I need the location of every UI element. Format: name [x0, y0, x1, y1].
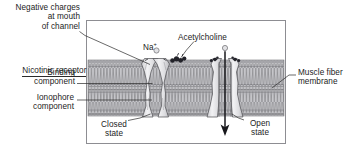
label-open-state: Open state: [240, 119, 280, 138]
label-sodium-ion-text: Na: [143, 43, 154, 52]
lipid-bilayer-membrane: [88, 60, 284, 116]
label-muscle-fiber-membrane: Muscle fiber membrane: [298, 68, 343, 87]
nicotinic-receptor-diagram: Negative charges at mouth of channel Nic…: [0, 0, 356, 152]
label-binding-component: Binding component: [0, 68, 75, 87]
label-acetylcholine: Acetylcholine: [178, 33, 227, 42]
label-negative-charges: Negative charges at mouth of channel: [0, 3, 80, 31]
label-sodium-ion-charge: +: [154, 41, 157, 47]
label-sodium-ion: Na+: [143, 40, 157, 52]
label-closed-state: Closed state: [92, 120, 136, 139]
label-ionophore-component: Ionophore component: [0, 93, 74, 112]
